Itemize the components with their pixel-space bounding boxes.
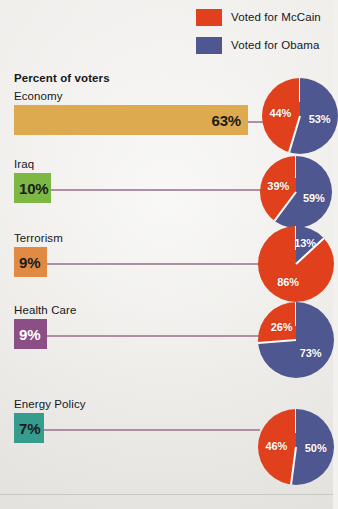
bar-terrorism: 9% [14,247,47,277]
issue-label-iraq: Iraq [14,158,51,170]
bar-economy: 63% [14,105,248,135]
legend-swatch-obama [196,37,222,54]
legend-item-mccain: Voted for McCain [196,6,321,28]
legend-item-obama: Voted for Obama [196,34,321,56]
bar-health-care: 9% [14,319,47,349]
column-header: Percent of voters [14,72,110,84]
pie-chart-health-care: 73%26% [258,302,334,378]
connector-energy-policy [44,429,260,431]
legend-label-mccain: Voted for McCain [231,11,321,23]
pie-label-obama-economy: 53% [309,113,331,125]
pie-separator-economy [288,116,301,153]
pie-slices-health-care [258,302,334,378]
pie-label-mccain-economy: 44% [270,107,292,119]
connector-terrorism [47,263,260,265]
pie-chart-terrorism: 13%86% [258,226,334,302]
legend: Voted for McCain Voted for Obama [196,6,321,62]
issue-label-economy: Economy [14,90,248,102]
issue-label-terrorism: Terrorism [14,232,63,244]
bar-value-health-care: 9% [19,327,40,342]
issue-row-economy: Economy63% [14,90,248,135]
issue-row-iraq: Iraq10% [14,158,51,203]
connector-health-care [47,335,260,337]
pie-label-mccain-iraq: 39% [267,180,289,192]
legend-label-obama: Voted for Obama [231,39,319,51]
footer-rule [0,494,333,495]
pie-label-mccain-terrorism: 86% [277,276,299,288]
pie-chart-energy-policy: 50%46% [258,409,334,485]
bar-value-economy: 63% [212,113,241,128]
legend-swatch-mccain [196,9,222,26]
pie-chart-economy: 53%44% [262,78,338,154]
issue-label-energy-policy: Energy Policy [14,398,86,410]
issue-row-health-care: Health Care9% [14,304,76,349]
bar-value-terrorism: 9% [19,255,40,270]
pie-separator-energy-policy [290,447,297,485]
pie-label-mccain-energy-policy: 46% [265,440,287,452]
pie-separator-health-care [258,339,296,344]
bar-iraq: 10% [14,173,51,203]
bar-value-iraq: 10% [19,181,48,196]
bar-energy-policy: 7% [14,413,44,443]
issue-label-health-care: Health Care [14,304,76,316]
pie-separator-iraq [274,191,297,221]
pie-label-obama-iraq: 59% [303,192,325,204]
connector-iraq [51,189,262,191]
pie-label-mccain-health-care: 26% [271,321,293,333]
issue-row-terrorism: Terrorism9% [14,232,63,277]
pie-label-obama-energy-policy: 50% [305,442,327,454]
issue-row-energy-policy: Energy Policy7% [14,398,86,443]
bar-value-energy-policy: 7% [19,421,40,436]
pie-label-obama-health-care: 73% [300,347,322,359]
pie-chart-iraq: 59%39% [260,156,332,228]
pie-label-obama-terrorism: 13% [294,237,316,249]
